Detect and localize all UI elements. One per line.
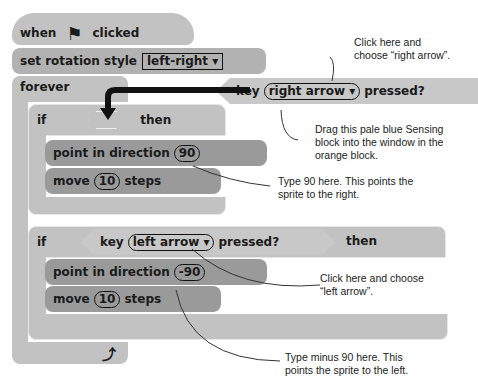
then-label: then [346, 234, 377, 248]
rotation-dropdown[interactable]: left-right ▾ [142, 53, 223, 70]
move-label: move [53, 292, 90, 306]
direction-input[interactable]: -90 [174, 264, 206, 281]
key-left-arrow-pressed-condition[interactable]: key left arrow ▾ pressed? [80, 229, 336, 255]
if-label: if [37, 113, 46, 127]
green-flag-icon: ⚑ [66, 23, 82, 44]
move-block-2[interactable]: move 10 steps [45, 286, 221, 312]
note-left-arrow: Click here and choose “left arrow”. [320, 272, 430, 298]
when-label: when [20, 26, 56, 40]
if2-left-arm [28, 257, 46, 317]
key-dropdown-right-arrow[interactable]: right arrow ▾ [264, 83, 361, 100]
then-label: then [140, 113, 171, 127]
move-label: move [53, 174, 90, 188]
key-dropdown-left-arrow[interactable]: left arrow ▾ [128, 234, 215, 251]
key-right-arrow-pressed-block[interactable]: key right arrow ▾ pressed? [216, 78, 478, 104]
loop-arrow-icon: ⤴ [102, 343, 116, 363]
note-right-arrow: Click here and choose “right arrow”. [354, 36, 456, 62]
note-type-90: Type 90 here. This points the sprite to … [278, 175, 428, 201]
steps-input[interactable]: 10 [94, 291, 121, 308]
forever-bottom: ⤴ [12, 342, 128, 364]
steps-input[interactable]: 10 [94, 173, 121, 190]
rotation-label: set rotation style [20, 54, 137, 68]
if1-bottom [28, 197, 226, 215]
move-block-1[interactable]: move 10 steps [45, 168, 221, 194]
direction-input[interactable]: 90 [174, 145, 201, 162]
forever-left-arm [12, 100, 28, 348]
key-label: key [100, 235, 124, 249]
pressed-label: pressed? [218, 235, 279, 249]
point-direction-label: point in direction [53, 146, 170, 160]
forever-label: forever [20, 80, 69, 94]
set-rotation-style-block[interactable]: set rotation style left-right ▾ [12, 48, 266, 74]
note-minus-90: Type minus 90 here. This points the spri… [285, 351, 425, 377]
clicked-label: clicked [92, 26, 139, 40]
if-label: if [37, 235, 46, 249]
when-flag-clicked-block[interactable]: when ⚑ clicked [12, 13, 194, 45]
if-block-1[interactable]: if then [28, 104, 226, 136]
pressed-label: pressed? [364, 84, 425, 98]
steps-label: steps [124, 292, 161, 306]
steps-label: steps [124, 174, 161, 188]
point-direction-label: point in direction [53, 265, 170, 279]
empty-condition-slot[interactable] [88, 111, 126, 129]
key-label: key [236, 84, 260, 98]
point-direction-block-1[interactable]: point in direction 90 [45, 140, 267, 166]
point-direction-block-2[interactable]: point in direction -90 [45, 259, 267, 285]
if2-bottom [28, 314, 448, 340]
note-drag-sensing: Drag this pale blue Sensing block into t… [315, 123, 455, 162]
forever-block[interactable]: forever [12, 76, 128, 102]
